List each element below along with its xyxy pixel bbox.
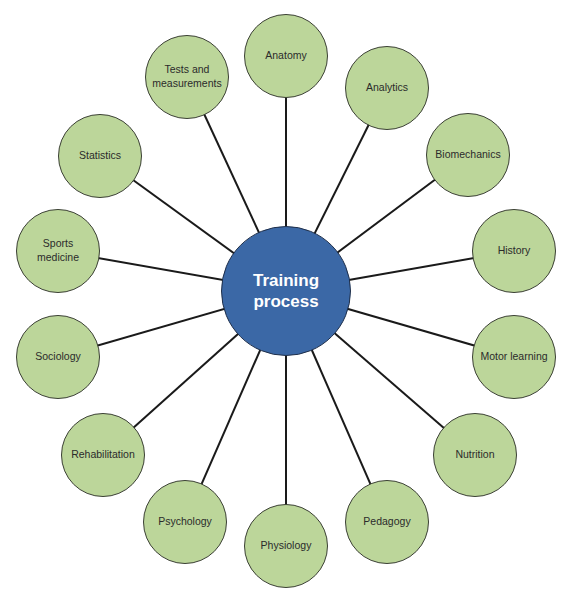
hub-label: Training process — [253, 270, 319, 313]
node-label: Rehabilitation — [71, 448, 135, 462]
node-label: Physiology — [261, 539, 312, 553]
node-psychology: Psychology — [143, 480, 227, 564]
node-rehabilitation: Rehabilitation — [61, 413, 145, 497]
node-label: Biomechanics — [435, 148, 500, 162]
node-label: Motor learning — [480, 350, 547, 364]
node-label: Pedagogy — [363, 515, 410, 529]
node-sociology: Sociology — [16, 315, 100, 399]
node-biomechanics: Biomechanics — [426, 113, 510, 197]
node-sports-medicine: Sports medicine — [16, 209, 100, 293]
hub-training-process: Training process — [221, 226, 351, 356]
node-label: Nutrition — [455, 448, 494, 462]
node-label: Sociology — [35, 350, 81, 364]
node-pedagogy: Pedagogy — [345, 480, 429, 564]
node-anatomy: Anatomy — [244, 14, 328, 98]
node-history: History — [472, 209, 556, 293]
node-label: Tests and measurements — [152, 63, 221, 90]
node-label: Psychology — [158, 515, 212, 529]
training-process-diagram: Training process AnatomyAnalyticsBiomech… — [0, 0, 570, 606]
node-physiology: Physiology — [244, 504, 328, 588]
node-analytics: Analytics — [345, 46, 429, 130]
node-statistics: Statistics — [58, 114, 142, 198]
node-motor-learning: Motor learning — [472, 315, 556, 399]
node-nutrition: Nutrition — [433, 413, 517, 497]
node-label: History — [498, 244, 531, 258]
node-tests-and-measurements: Tests and measurements — [145, 35, 229, 119]
node-label: Sports medicine — [37, 237, 79, 264]
node-label: Analytics — [366, 81, 408, 95]
node-label: Anatomy — [265, 49, 306, 63]
node-label: Statistics — [79, 149, 121, 163]
